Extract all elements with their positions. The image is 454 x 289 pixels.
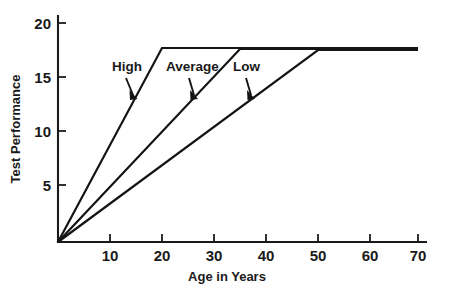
x-tick-label-30: 30 bbox=[206, 247, 223, 264]
pointer-line-high bbox=[126, 78, 133, 95]
arrow-head-low-icon bbox=[247, 90, 255, 100]
x-tick-label-10: 10 bbox=[102, 247, 119, 264]
annotation-low: Low bbox=[233, 59, 260, 100]
x-axis-ticks bbox=[110, 234, 418, 242]
series-group bbox=[58, 48, 418, 242]
test-performance-by-age-chart: 20 15 10 5 10 20 30 40 50 60 70 Age in Y… bbox=[0, 0, 454, 289]
series-line-average bbox=[58, 49, 418, 242]
chart-container: 20 15 10 5 10 20 30 40 50 60 70 Age in Y… bbox=[0, 0, 454, 289]
series-label-average: Average bbox=[166, 59, 219, 74]
x-axis-title: Age in Years bbox=[188, 269, 266, 284]
y-axis-ticks bbox=[58, 23, 66, 185]
x-tick-label-60: 60 bbox=[362, 247, 379, 264]
y-tick-label-15: 15 bbox=[34, 69, 51, 86]
series-line-high bbox=[58, 48, 418, 242]
y-tick-label-5: 5 bbox=[43, 177, 51, 194]
x-tick-label-50: 50 bbox=[310, 247, 327, 264]
y-axis-title: Test Performance bbox=[8, 75, 23, 184]
x-axis-tick-labels: 10 20 30 40 50 60 70 bbox=[102, 247, 427, 264]
x-tick-label-40: 40 bbox=[258, 247, 275, 264]
y-tick-label-20: 20 bbox=[34, 15, 51, 32]
series-label-high: High bbox=[112, 59, 142, 74]
series-label-low: Low bbox=[233, 59, 260, 74]
y-tick-label-10: 10 bbox=[34, 123, 51, 140]
x-tick-label-20: 20 bbox=[154, 247, 171, 264]
y-axis-tick-labels: 20 15 10 5 bbox=[34, 15, 51, 194]
x-tick-label-70: 70 bbox=[410, 247, 427, 264]
series-line-low bbox=[58, 50, 418, 242]
